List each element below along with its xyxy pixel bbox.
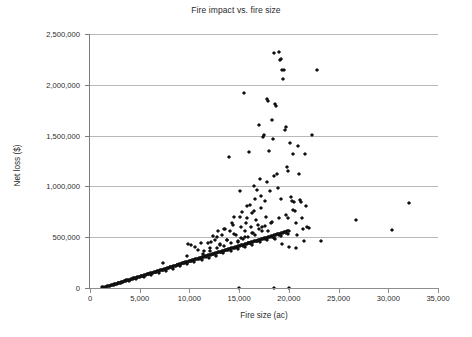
y-tick-label: 500,000	[8, 233, 80, 242]
x-axis-line	[90, 288, 439, 289]
gridlines	[90, 34, 438, 288]
y-tick-mark	[85, 186, 90, 187]
chart-title: Fire impact vs. fire size	[0, 5, 472, 15]
x-tick-label: 35,000	[426, 294, 449, 303]
gridline	[90, 34, 438, 35]
x-tick-label: 25,000	[327, 294, 350, 303]
y-tick-mark	[85, 136, 90, 137]
x-tick-label: 5,000	[130, 294, 149, 303]
y-tick-label: 2,500,000	[8, 30, 80, 39]
y-tick-label: 0	[8, 284, 80, 293]
x-tick-mark	[289, 289, 290, 293]
x-tick-label: 0	[88, 294, 92, 303]
y-tick-label: 2,000,000	[8, 80, 80, 89]
x-tick-mark	[140, 289, 141, 293]
x-tick-label: 20,000	[277, 294, 300, 303]
x-tick-mark	[388, 289, 389, 293]
x-tick-mark	[438, 289, 439, 293]
y-axis-line	[89, 34, 90, 289]
x-tick-mark	[90, 289, 91, 293]
x-tick-label: 30,000	[377, 294, 400, 303]
x-tick-label: 15,000	[228, 294, 251, 303]
y-axis-title: Net loss ($)	[13, 111, 22, 221]
scatter-chart: Fire impact vs. fire size 0500,0001,000,…	[0, 0, 472, 337]
x-tick-label: 10,000	[178, 294, 201, 303]
gridline	[90, 186, 438, 187]
x-tick-mark	[189, 289, 190, 293]
gridline	[90, 85, 438, 86]
x-axis-title: Fire size (ac)	[90, 311, 438, 320]
data-point	[160, 267, 164, 271]
y-tick-mark	[85, 85, 90, 86]
plot-area	[90, 34, 438, 288]
y-tick-mark	[85, 237, 90, 238]
y-tick-mark	[85, 34, 90, 35]
x-tick-mark	[339, 289, 340, 293]
x-tick-mark	[239, 289, 240, 293]
